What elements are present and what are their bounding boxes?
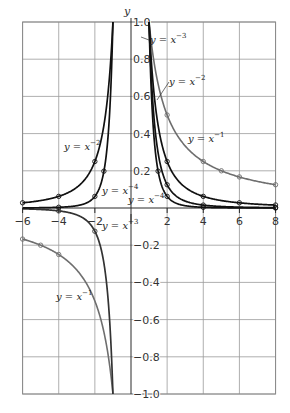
x-tick-label: 2 [164, 215, 171, 228]
label-pos-x-1: y = x−1 [187, 131, 224, 144]
curve-neg-x-3 [23, 209, 114, 400]
y-axis-label: y [123, 5, 131, 18]
y-tick-label: −0.8 [133, 351, 160, 364]
y-tick-label: −1.0 [133, 388, 160, 401]
y-tick-label: 0.4 [133, 128, 151, 141]
curve-pos-x-3 [149, 16, 276, 207]
curve-neg-x-2 [23, 16, 114, 202]
y-tick-label: 1.0 [133, 16, 151, 29]
label-pos-x-2: y = x−2 [168, 74, 205, 87]
x-tick-label: −4 [51, 215, 67, 228]
label-neg-x-3: y = x−3 [101, 218, 138, 231]
x-tick-label: 4 [200, 215, 207, 228]
x-tick-label: −6 [14, 215, 30, 228]
x-tick-label: 6 [236, 215, 243, 228]
curve-neg-x-1 [23, 239, 114, 398]
x-tick-label: 8 [272, 215, 279, 228]
curve-neg-x-4 [23, 16, 114, 207]
y-tick-label: 0.6 [133, 90, 151, 103]
leader-pos-x-3 [141, 37, 149, 40]
x-tick-label: −2 [87, 215, 103, 228]
label-neg-x-1: y = x−1 [55, 289, 92, 302]
y-tick-label: 0.8 [133, 53, 151, 66]
y-tick-label: 0.2 [133, 165, 151, 178]
y-tick-label: −0.2 [133, 239, 160, 252]
y-tick-label: −0.6 [133, 314, 160, 327]
power-function-chart: −6−4−224681.00.80.60.40.2−0.2−0.4−0.6−0.… [0, 0, 290, 413]
label-pos-x-4: y = x−4 [127, 192, 165, 205]
y-tick-label: −0.4 [133, 276, 160, 289]
curve-pos-x-4 [149, 16, 276, 208]
label-pos-x-3: y = x−3 [149, 32, 186, 45]
